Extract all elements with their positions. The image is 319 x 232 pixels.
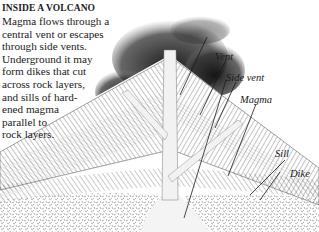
label-magma: Magma xyxy=(240,94,272,105)
caption-line: central vent or escapes xyxy=(2,28,120,41)
caption-line: ened magma xyxy=(2,103,120,116)
caption-title: INSIDE A VOLCANO xyxy=(2,3,120,14)
caption-line: through side vents. xyxy=(2,40,120,53)
caption-line: parallel to xyxy=(2,116,120,129)
caption-line: Magma flows through a xyxy=(2,15,120,28)
label-dike: Dike xyxy=(290,168,310,179)
caption-body: Magma flows through a central vent or es… xyxy=(2,15,120,141)
label-vent: Vent xyxy=(215,51,233,62)
label-side-vent: Side vent xyxy=(226,72,264,83)
caption-block: INSIDE A VOLCANO Magma flows through a c… xyxy=(2,3,120,141)
caption-line: form dikes that cut xyxy=(2,65,120,78)
caption-line: across rock layers, xyxy=(2,78,120,91)
caption-line: rock layers. xyxy=(2,128,120,141)
caption-line: Underground it may xyxy=(2,53,120,66)
label-sill: Sill xyxy=(275,148,289,159)
caption-line: and sills of hard- xyxy=(2,91,120,104)
